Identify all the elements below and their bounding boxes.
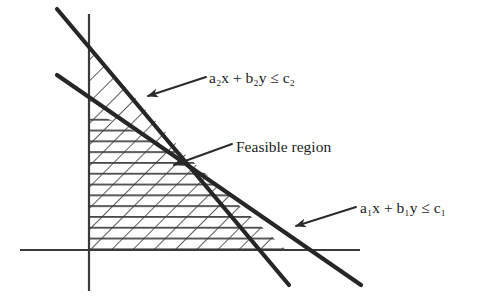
constraint2-leader-arrow	[148, 77, 206, 96]
constraint1-label: a₁x + b₁y ≤ c₁	[360, 200, 446, 216]
constraint2-label-text: a₂x + b₂y ≤ c₂	[209, 69, 295, 86]
feasible-region-label: Feasible region	[236, 139, 331, 155]
feasible-region-diagram: a₂x + b₂y ≤ c₂ Feasible region a₁x + b₁y…	[0, 0, 489, 304]
feasible-region-shape	[70, 95, 310, 270]
constraint1-label-text: a₁x + b₁y ≤ c₁	[360, 199, 446, 216]
feasible-region-label-text: Feasible region	[236, 138, 331, 155]
constraint1-leader-arrow	[296, 207, 356, 226]
constraint2-label: a₂x + b₂y ≤ c₂	[209, 70, 295, 86]
